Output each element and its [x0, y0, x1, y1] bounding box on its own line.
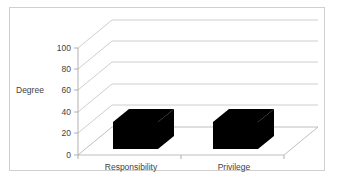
x-category-label-privilege: Privilege [218, 162, 251, 172]
y-tick-label-60: 60 [62, 85, 72, 95]
y-axis [74, 48, 78, 155]
bar-responsibility[interactable] [113, 109, 174, 149]
y-tick-label-80: 80 [62, 64, 72, 74]
x-category-label-responsibility: Responsibility [105, 162, 158, 172]
y-tick-label-20: 20 [62, 128, 72, 138]
gridline-40 [78, 84, 318, 112]
chart-container: 100 80 60 40 20 0 Degree Responsibility [0, 0, 337, 186]
y-tick-label-0: 0 [66, 150, 71, 160]
y-tick-label-100: 100 [57, 43, 71, 53]
bar-privilege[interactable] [213, 109, 274, 149]
y-axis-title: Degree [16, 85, 44, 95]
gridline-60 [78, 62, 318, 90]
gridline-100 [78, 20, 318, 48]
x-axis-ticks [78, 155, 284, 159]
chart-plot-area: 100 80 60 40 20 0 Degree Responsibility [0, 0, 337, 186]
floor-left-edge [78, 127, 112, 155]
gridline-group [78, 20, 318, 133]
bar-responsibility-front [113, 122, 158, 149]
y-tick-label-40: 40 [62, 107, 72, 117]
floor-right-edge [284, 127, 318, 155]
bar-privilege-front [213, 122, 258, 149]
gridline-80 [78, 41, 318, 69]
